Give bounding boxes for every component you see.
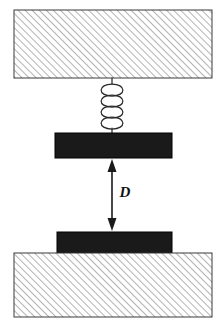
lower-mass-rect — [57, 232, 172, 253]
spring-turn-4 — [101, 117, 123, 129]
coil-spring — [101, 78, 123, 134]
upper-mass-plate — [55, 133, 172, 158]
gap-dimension-D: D — [108, 159, 131, 231]
spring-turn-2 — [101, 95, 123, 107]
spring-mass-gap-diagram: D — [0, 0, 223, 326]
bottom-fixed-support — [14, 253, 212, 317]
spring-turn-1 — [101, 84, 123, 96]
lower-mass-plate — [57, 232, 172, 253]
bottom-support-rect — [14, 253, 212, 317]
gap-dimension-label: D — [119, 184, 131, 200]
top-support-rect — [14, 10, 212, 78]
diagram-canvas: D — [0, 0, 223, 326]
top-fixed-support — [14, 10, 212, 78]
arrow-head-up — [108, 159, 117, 172]
upper-mass-rect — [55, 133, 172, 158]
spring-turn-3 — [101, 106, 123, 118]
arrow-head-down — [108, 218, 117, 231]
